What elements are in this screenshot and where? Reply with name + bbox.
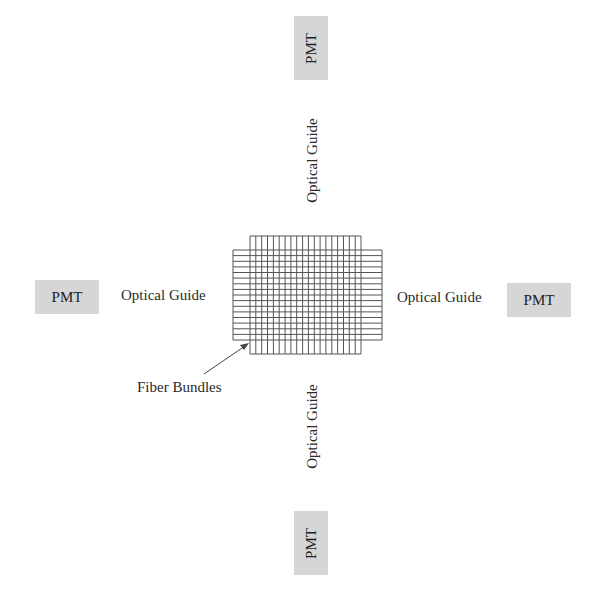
fiber-grid <box>0 0 602 599</box>
arrow-icon <box>204 343 249 374</box>
